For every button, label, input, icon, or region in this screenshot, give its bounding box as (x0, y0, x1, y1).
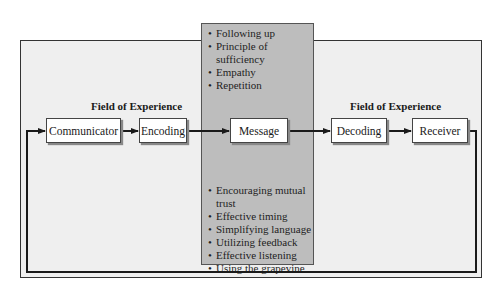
node-label: Receiver (420, 125, 461, 137)
field-of-experience-sender-label: Field of Experience (91, 100, 182, 112)
message-techniques-bottom-list: Encouraging mutual trust Effective timin… (208, 184, 314, 275)
technique-item: Principle of sufficiency (208, 40, 312, 66)
node-label: Decoding (337, 125, 382, 137)
technique-item: Repetition (208, 79, 312, 92)
technique-item: Effective listening (208, 249, 314, 262)
technique-item: Effective timing (208, 210, 314, 223)
technique-item: Using the grapevine (208, 262, 314, 275)
node-decoding: Decoding (331, 118, 387, 143)
technique-item: Utilizing feedback (208, 236, 314, 249)
node-label: Encoding (141, 125, 185, 137)
node-label: Communicator (49, 125, 118, 137)
node-receiver: Receiver (412, 118, 468, 143)
node-message: Message (230, 118, 288, 143)
node-communicator: Communicator (46, 118, 121, 143)
technique-item: Following up (208, 27, 312, 40)
technique-item: Encouraging mutual trust (208, 184, 314, 210)
technique-item: Simplifying language (208, 223, 314, 236)
node-label: Message (239, 125, 279, 137)
node-encoding: Encoding (139, 118, 187, 143)
message-techniques-top-list: Following up Principle of sufficiency Em… (208, 27, 312, 92)
technique-item: Empathy (208, 66, 312, 79)
field-of-experience-receiver-label: Field of Experience (350, 100, 441, 112)
